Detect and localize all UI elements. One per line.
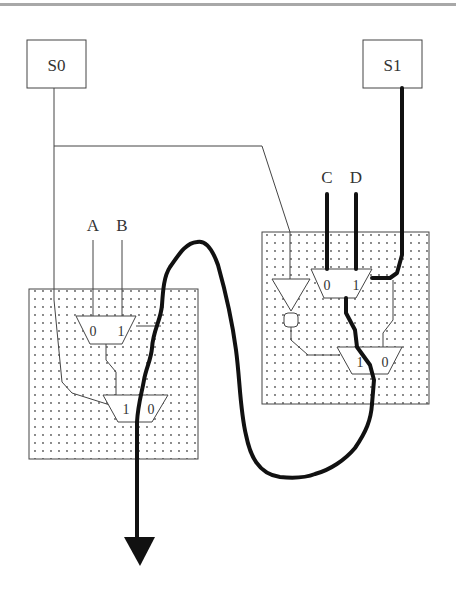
left-mux1-in0: 0 [90,324,97,339]
s1-label: S1 [384,56,402,75]
inverter-bubble [284,313,298,327]
left-mux1-in1: 1 [118,324,125,339]
s1-box: S1 [363,40,422,88]
s0-box: S0 [27,40,86,88]
input-b-label: B [116,216,127,235]
output-arrow-icon [124,537,155,566]
mux-circuit-diagram: S0 S1 A B C D 0 1 1 0 [0,0,456,594]
top-rule [0,3,456,6]
input-c-label: C [321,168,332,187]
left-mux2-in0: 0 [148,402,155,417]
input-a-label: A [87,216,100,235]
left-block [29,289,198,459]
left-mux2-in1: 1 [123,402,130,417]
input-d-label: D [350,168,362,187]
s0-label: S0 [48,56,66,75]
right-mux2-in0: 0 [382,355,389,370]
right-mux1-in1: 1 [353,278,360,293]
right-mux1-in0: 0 [324,278,331,293]
